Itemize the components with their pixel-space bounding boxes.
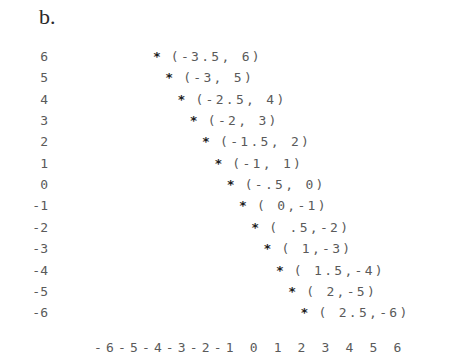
data-point: * (-2.5, 4) xyxy=(178,93,287,107)
y-tick-label: 5 xyxy=(28,71,48,85)
data-point: * (-.5, 0) xyxy=(227,178,326,192)
y-tick-label: 3 xyxy=(28,114,48,128)
point-label: (-3.5, 6) xyxy=(161,49,262,64)
point-label: ( 2,-5) xyxy=(296,284,377,299)
y-tick-label: -6 xyxy=(28,306,48,320)
point-label: ( 2.5,-6) xyxy=(308,305,409,320)
data-point: * (-1.5, 2) xyxy=(202,135,311,149)
point-label: (-.5, 0) xyxy=(235,177,326,192)
point-label: (-2, 3) xyxy=(198,113,279,128)
y-tick-label: 2 xyxy=(28,135,48,149)
data-point: * (-1, 1) xyxy=(214,157,303,171)
point-label: ( 0,-1) xyxy=(247,198,328,213)
point-label: ( 1,-3) xyxy=(271,241,352,256)
scatter-plot: 6543210-1-2-3-4-5-6 * (-3.5, 6)* (-3, 5)… xyxy=(0,0,462,362)
y-tick-label: 0 xyxy=(28,178,48,192)
data-point: * ( 2.5,-6) xyxy=(301,306,410,320)
asterisk-marker-icon: * xyxy=(239,198,247,213)
x-axis-labels: -6-5-4-3-2-1 0 1 2 3 4 5 6 xyxy=(94,341,405,355)
asterisk-marker-icon: * xyxy=(165,70,173,85)
y-tick-label: 6 xyxy=(28,50,48,64)
y-tick-label: -3 xyxy=(28,242,48,256)
y-tick-label: -5 xyxy=(28,285,48,299)
asterisk-marker-icon: * xyxy=(202,134,210,149)
y-tick-label: -1 xyxy=(28,199,48,213)
y-tick-label: 4 xyxy=(28,93,48,107)
data-point: * ( .5,-2) xyxy=(251,221,350,235)
y-tick-label: 1 xyxy=(28,157,48,171)
y-tick-label: -2 xyxy=(28,221,48,235)
point-label: ( .5,-2) xyxy=(259,220,350,235)
data-point: * (-3.5, 6) xyxy=(153,50,262,64)
data-point: * (-2, 3) xyxy=(190,114,279,128)
data-point: * ( 1,-3) xyxy=(264,242,353,256)
asterisk-marker-icon: * xyxy=(153,49,161,64)
asterisk-marker-icon: * xyxy=(190,113,198,128)
data-point: * ( 2,-5) xyxy=(288,285,377,299)
point-label: (-1, 1) xyxy=(222,156,303,171)
asterisk-marker-icon: * xyxy=(276,263,284,278)
point-label: ( 1.5,-4) xyxy=(284,263,385,278)
point-label: (-3, 5) xyxy=(173,70,254,85)
data-point: * (-3, 5) xyxy=(165,71,254,85)
data-point: * ( 0,-1) xyxy=(239,199,328,213)
asterisk-marker-icon: * xyxy=(288,284,296,299)
point-label: (-2.5, 4) xyxy=(185,92,286,107)
asterisk-marker-icon: * xyxy=(227,177,235,192)
asterisk-marker-icon: * xyxy=(251,220,259,235)
data-point: * ( 1.5,-4) xyxy=(276,264,385,278)
y-tick-label: -4 xyxy=(28,264,48,278)
point-label: (-1.5, 2) xyxy=(210,134,311,149)
